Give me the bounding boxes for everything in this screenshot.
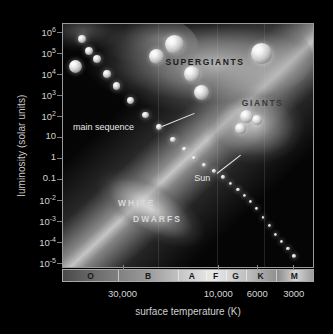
spectral-class-bar: OBAFGKM	[62, 269, 314, 282]
supergiant-star	[165, 35, 184, 54]
leader-line-main-sequence	[162, 113, 195, 127]
main-sequence-star	[192, 156, 196, 160]
plot-canvas: SUPERGIANTS GIANTS WHITE DWARFS main seq…	[63, 24, 313, 267]
y-axis-label: luminosity (solar units)	[16, 51, 27, 241]
spectral-class-F: F	[213, 271, 218, 282]
leader-line-sun	[216, 155, 240, 174]
spectral-class-divider	[118, 270, 119, 281]
spectral-class-B: B	[145, 271, 151, 282]
plot-area: SUPERGIANTS GIANTS WHITE DWARFS main seq…	[62, 23, 314, 268]
x-axis-tick-label: 3000	[283, 288, 304, 299]
x-axis-tick-mark	[123, 265, 124, 270]
main-sequence-star	[249, 200, 252, 203]
spectral-class-G: G	[232, 271, 239, 282]
main-sequence-star	[280, 240, 283, 243]
main-sequence-star	[262, 216, 265, 219]
x-axis-tick-mark	[257, 265, 258, 270]
supergiant-star	[149, 49, 164, 64]
spectral-class-K: K	[257, 271, 263, 282]
x-axis-tick-label: 6000	[247, 288, 268, 299]
annotation-main-sequence: main sequence	[73, 122, 134, 132]
main-sequence-star	[170, 137, 175, 142]
y-axis-tick-label: 105	[42, 47, 56, 59]
main-sequence-star	[212, 169, 216, 173]
upper-left-wisp	[62, 23, 148, 63]
spectral-class-divider	[276, 270, 277, 281]
hr-diagram-figure: luminosity (solar units) 106105104103102…	[0, 0, 333, 334]
spectral-class-divider	[226, 270, 227, 281]
main-sequence-star	[142, 112, 148, 118]
main-sequence-star	[85, 47, 93, 55]
spectral-class-divider	[178, 270, 179, 281]
region-label-white-dwarfs-line2: DWARFS	[133, 214, 182, 224]
annotation-sun: Sun	[194, 173, 210, 183]
main-sequence-star	[103, 70, 111, 78]
main-sequence-star	[292, 254, 296, 258]
y-axis-tick-label: 104	[42, 68, 56, 80]
main-sequence-star	[78, 35, 86, 43]
y-axis-tick-label: 106	[42, 26, 56, 38]
x-axis-label: surface temperature (K)	[62, 306, 314, 317]
giant-star	[252, 115, 262, 125]
main-sequence-star	[268, 224, 271, 227]
main-sequence-star	[286, 247, 289, 250]
y-axis-tick-label: 10-5	[39, 257, 56, 269]
y-axis-tick-label: 10	[45, 131, 56, 141]
main-sequence-star	[255, 207, 258, 210]
y-axis-tick-label: 0.1	[43, 173, 56, 183]
spectral-class-O: O	[87, 271, 94, 282]
spectral-class-divider	[246, 270, 247, 281]
main-sequence-star	[202, 163, 206, 167]
main-sequence-star	[127, 97, 134, 104]
y-axis-tick-label: 10-3	[39, 215, 56, 227]
region-label-supergiants: SUPERGIANTS	[166, 57, 245, 67]
region-label-giants: GIANTS	[242, 98, 284, 108]
spectral-class-M: M	[291, 271, 298, 282]
main-sequence-star	[236, 188, 239, 191]
main-sequence-star	[274, 233, 277, 236]
region-label-white-dwarfs-line1: WHITE	[118, 198, 155, 208]
x-axis-tick-mark	[218, 265, 219, 270]
y-axis-tick-label: 1	[51, 152, 56, 162]
y-axis-tick-label: 10-2	[39, 194, 56, 206]
supergiant-star	[194, 85, 209, 100]
supergiant-star	[184, 66, 200, 82]
x-axis-tick-label: 10,000	[204, 288, 233, 299]
main-sequence-star	[93, 55, 101, 63]
main-sequence-star	[243, 194, 246, 197]
y-axis-tick-label: 103	[42, 89, 56, 101]
main-sequence-star	[182, 147, 187, 152]
x-axis-tick-mark	[293, 265, 294, 270]
x-axis-tick-label: 30,000	[108, 288, 137, 299]
giant-star	[235, 123, 246, 134]
main-sequence-star	[113, 82, 120, 89]
main-sequence-star	[221, 175, 224, 178]
spectral-class-A: A	[189, 271, 195, 282]
supergiant-star	[251, 43, 272, 64]
spectral-class-divider	[206, 270, 207, 281]
giants-cloud	[203, 82, 314, 169]
y-axis-tick-label: 10-4	[39, 236, 56, 248]
y-axis-tick-label: 102	[42, 110, 56, 122]
supergiant-star	[69, 60, 82, 73]
main-sequence-star	[229, 182, 232, 185]
